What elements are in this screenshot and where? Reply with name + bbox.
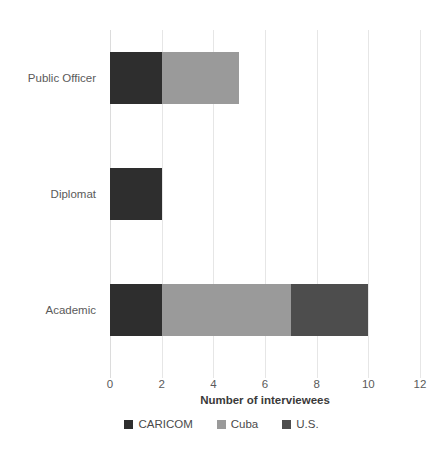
bar-segment-u-s	[291, 284, 369, 336]
bar-row-public-officer	[110, 52, 239, 104]
x-tick-0: 0	[107, 378, 113, 390]
x-tick-12: 12	[414, 378, 427, 390]
bar-segment-cuba	[162, 284, 291, 336]
legend-item-caricom[interactable]: CARICOM	[124, 418, 192, 430]
x-tick-10: 10	[362, 378, 375, 390]
y-tick-label-diplomat: Diplomat	[0, 168, 103, 220]
legend-item-cuba[interactable]: Cuba	[217, 418, 259, 430]
chart-legend: CARICOMCubaU.S.	[0, 418, 443, 430]
bar-row-diplomat	[110, 168, 162, 220]
stacked-bar-chart: Area of work Public Officer Diplomat Aca…	[0, 0, 443, 455]
legend-swatch-icon	[124, 420, 133, 429]
bar-segment-cuba	[162, 52, 240, 104]
gridline-12	[420, 30, 421, 378]
y-tick-labels: Public Officer Diplomat Academic	[0, 30, 103, 378]
bar-row-academic	[110, 284, 368, 336]
legend-item-u-s[interactable]: U.S.	[282, 418, 318, 430]
x-tick-8: 8	[313, 378, 319, 390]
x-tick-2: 2	[158, 378, 164, 390]
legend-label: U.S.	[296, 418, 318, 430]
legend-label: CARICOM	[138, 418, 192, 430]
legend-label: Cuba	[231, 418, 259, 430]
bar-series-group	[110, 30, 420, 378]
x-axis-title: Number of interviewees	[110, 394, 420, 406]
legend-swatch-icon	[217, 420, 226, 429]
legend-swatch-icon	[282, 420, 291, 429]
y-tick-label-public-officer: Public Officer	[0, 52, 103, 104]
bar-segment-caricom	[110, 168, 162, 220]
plot-area	[110, 30, 420, 378]
x-tick-6: 6	[262, 378, 268, 390]
x-tick-4: 4	[210, 378, 216, 390]
bar-segment-caricom	[110, 52, 162, 104]
y-tick-label-academic: Academic	[0, 284, 103, 336]
bar-segment-caricom	[110, 284, 162, 336]
